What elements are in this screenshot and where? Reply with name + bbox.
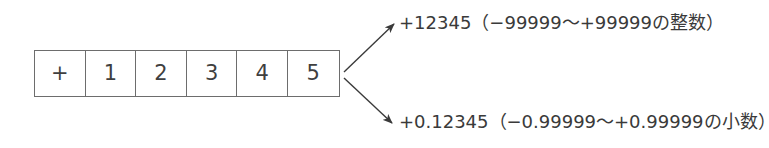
leader-arrow-integer xyxy=(344,24,394,72)
register-cell-digit-4: 4 xyxy=(237,51,288,96)
register-cell-digit-3: 3 xyxy=(187,51,238,96)
signed-digit-register: + 1 2 3 4 5 xyxy=(34,50,340,97)
register-cell-digit-2: 2 xyxy=(136,51,187,96)
register-cell-digit-1: 1 xyxy=(86,51,137,96)
leader-arrow-fraction xyxy=(344,78,392,123)
annotation-fraction-interpretation: +0.12345（−0.99999〜+0.99999の小数） xyxy=(399,113,769,131)
register-cell-digit-5: 5 xyxy=(288,51,339,96)
register-cell-sign: + xyxy=(35,51,86,96)
register-interpretation-diagram: + 1 2 3 4 5 +12345（−99999〜+99999の整数） +0.… xyxy=(0,0,769,148)
annotation-integer-interpretation: +12345（−99999〜+99999の整数） xyxy=(399,14,724,32)
